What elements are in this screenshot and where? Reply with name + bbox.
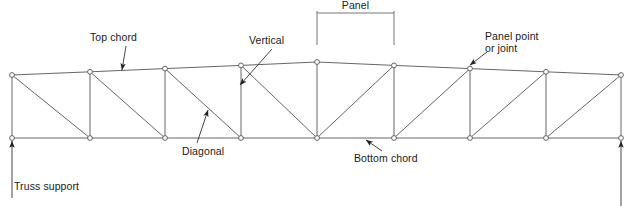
label-vertical: Vertical: [249, 35, 284, 47]
truss-diagram-canvas: Top chord Vertical Panel Panel pointor j…: [0, 0, 630, 206]
panel-point-node-T6: [468, 66, 473, 71]
panel-point-node-T2: [163, 66, 168, 71]
diagonal-member-5: [394, 69, 470, 138]
panel-point-node-B5: [392, 136, 397, 141]
panel-point-node-B8: [619, 136, 624, 141]
label-panel-point-line1: Panel point: [485, 30, 539, 42]
panel-point-node-B3: [239, 136, 244, 141]
panel-point-node-T0: [10, 73, 15, 78]
label-panel-point-line2: or joint: [485, 42, 517, 54]
diagonal-member-3: [241, 65, 317, 138]
label-diagonal: Diagonal: [182, 146, 224, 158]
panel-point-node-T5: [392, 63, 397, 68]
label-top-chord: Top chord: [90, 32, 137, 44]
truss-members-group: [12, 62, 621, 138]
panel-point-node-T7: [544, 69, 549, 74]
panel-point-node-B6: [468, 136, 473, 141]
diagonal-member-4: [317, 65, 394, 138]
diagonal-member-1: [90, 72, 165, 138]
diagonal-member-0: [12, 75, 90, 138]
diagonal-member-7: [546, 75, 621, 138]
panel-point-node-B1: [88, 136, 93, 141]
label-bottom-chord: Bottom chord: [354, 153, 418, 165]
support-leaders-group: [12, 141, 621, 206]
label-panel: Panel: [342, 0, 369, 12]
panel-dimension-group: [317, 11, 394, 45]
leader-bottom-chord: [366, 140, 382, 151]
panel-point-node-B0: [10, 136, 15, 141]
panel-point-node-B4: [315, 136, 320, 141]
panel-point-node-T8: [619, 73, 624, 78]
panel-point-node-B2: [163, 136, 168, 141]
label-panel-point-or-joint: Panel pointor joint: [485, 31, 539, 54]
panel-point-node-T3: [239, 63, 244, 68]
leader-top-chord: [122, 46, 126, 70]
diagonal-member-6: [470, 72, 546, 138]
annotation-leaders-group: [122, 46, 487, 151]
label-truss-support: Truss support: [14, 181, 79, 193]
panel-point-node-T4: [315, 60, 320, 65]
diagonal-member-2: [165, 69, 241, 138]
panel-point-node-B7: [544, 136, 549, 141]
panel-point-node-T1: [88, 69, 93, 74]
